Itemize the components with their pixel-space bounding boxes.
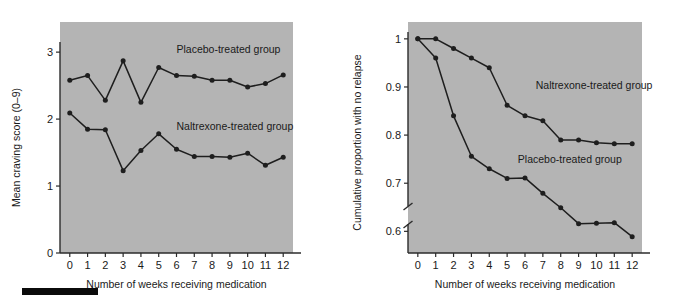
y-tick-label: 2: [47, 113, 53, 125]
series-data-point: [138, 100, 143, 105]
x-tick-label: 4: [486, 259, 492, 271]
plot-background: [60, 22, 293, 253]
x-tick-label: 6: [173, 259, 179, 271]
series-data-point: [558, 137, 563, 142]
series-data-point: [103, 98, 108, 103]
series-data-point: [245, 84, 250, 89]
series-data-point: [227, 155, 232, 160]
x-tick-label: 10: [242, 259, 254, 271]
x-tick-label: 12: [277, 259, 289, 271]
series-data-point: [505, 103, 510, 108]
series-data-point: [469, 154, 474, 159]
x-tick-label: 7: [540, 259, 546, 271]
figure-footer-rule: [22, 288, 98, 295]
x-tick-label: 11: [260, 259, 271, 271]
y-tick-label: 0.7: [386, 177, 401, 189]
series-data-point: [612, 220, 617, 225]
series-data-point: [85, 73, 90, 78]
x-tick-label: 3: [468, 259, 474, 271]
x-tick-label: 9: [227, 259, 233, 271]
series-data-point: [469, 56, 474, 61]
x-tick-label: 8: [209, 259, 215, 271]
plot-background: [408, 22, 642, 253]
series-label: Placebo-treated group: [177, 43, 281, 55]
series-data-point: [576, 221, 581, 226]
series-data-point: [523, 175, 528, 180]
series-data-point: [612, 141, 617, 146]
x-tick-label: 10: [590, 259, 602, 271]
series-data-point: [192, 154, 197, 159]
y-tick-label: 0: [47, 247, 53, 259]
series-data-point: [227, 78, 232, 83]
x-tick-label: 11: [609, 259, 620, 271]
series-data-point: [156, 131, 161, 136]
series-data-point: [121, 168, 126, 173]
y-tick-label: 0.6: [386, 225, 401, 237]
series-data-point: [281, 155, 286, 160]
x-tick-label: 4: [138, 259, 144, 271]
series-data-point: [487, 166, 492, 171]
series-data-point: [415, 36, 420, 41]
y-axis-title: Cumulative proportion with no relapse: [351, 54, 363, 230]
series-data-point: [263, 163, 268, 168]
series-data-point: [540, 191, 545, 196]
chart-panel-right: 0.60.70.80.910123456789101112Naltrexone-…: [340, 0, 673, 300]
series-data-point: [156, 65, 161, 70]
y-tick-label: 1: [395, 33, 401, 45]
x-tick-label: 5: [156, 259, 162, 271]
x-tick-label: 6: [522, 259, 528, 271]
series-data-point: [85, 127, 90, 132]
x-tick-label: 0: [415, 259, 421, 271]
series-data-point: [192, 74, 197, 79]
series-label: Placebo-treated group: [518, 153, 622, 165]
y-tick-label: 0.8: [386, 129, 401, 141]
series-data-point: [433, 36, 438, 41]
series-data-point: [138, 148, 143, 153]
series-label: Naltrexone-treated group: [177, 120, 294, 132]
y-axis-title: Mean craving score (0–9): [10, 88, 22, 207]
series-data-point: [558, 205, 563, 210]
series-data-point: [630, 234, 635, 239]
series-data-point: [121, 58, 126, 63]
x-tick-label: 8: [558, 259, 564, 271]
x-tick-label: 12: [626, 259, 638, 271]
series-data-point: [281, 72, 286, 77]
x-tick-label: 1: [85, 259, 91, 271]
y-tick-label: 0.9: [386, 81, 401, 93]
line-chart-mean-craving-score: 01230123456789101112Placebo-treated grou…: [0, 0, 340, 300]
x-tick-label: 5: [504, 259, 510, 271]
series-data-point: [210, 78, 215, 83]
series-data-point: [174, 73, 179, 78]
series-data-point: [487, 65, 492, 70]
x-tick-label: 1: [433, 259, 439, 271]
x-axis-title: Number of weeks receiving medication: [86, 278, 266, 290]
series-data-point: [103, 127, 108, 132]
series-data-point: [594, 140, 599, 145]
x-tick-label: 9: [576, 259, 582, 271]
x-axis-title: Number of weeks receiving medication: [435, 278, 615, 290]
figure-container: 01230123456789101112Placebo-treated grou…: [0, 0, 673, 300]
series-data-point: [540, 118, 545, 123]
series-data-point: [630, 141, 635, 146]
series-data-point: [67, 111, 72, 116]
y-tick-label: 3: [47, 46, 53, 58]
chart-panel-left: 01230123456789101112Placebo-treated grou…: [0, 0, 340, 300]
x-tick-label: 7: [191, 259, 197, 271]
series-label: Naltrexone-treated group: [536, 79, 653, 91]
x-tick-label: 2: [450, 259, 456, 271]
x-tick-label: 2: [102, 259, 108, 271]
series-data-point: [210, 154, 215, 159]
series-data-point: [174, 147, 179, 152]
series-data-point: [505, 176, 510, 181]
x-tick-label: 0: [67, 259, 73, 271]
series-data-point: [67, 78, 72, 83]
series-data-point: [263, 81, 268, 86]
series-data-point: [523, 113, 528, 118]
series-data-point: [576, 137, 581, 142]
series-data-point: [451, 113, 456, 118]
x-tick-label: 3: [120, 259, 126, 271]
series-data-point: [594, 221, 599, 226]
series-data-point: [245, 151, 250, 156]
y-tick-label: 1: [47, 180, 53, 192]
series-data-point: [433, 56, 438, 61]
